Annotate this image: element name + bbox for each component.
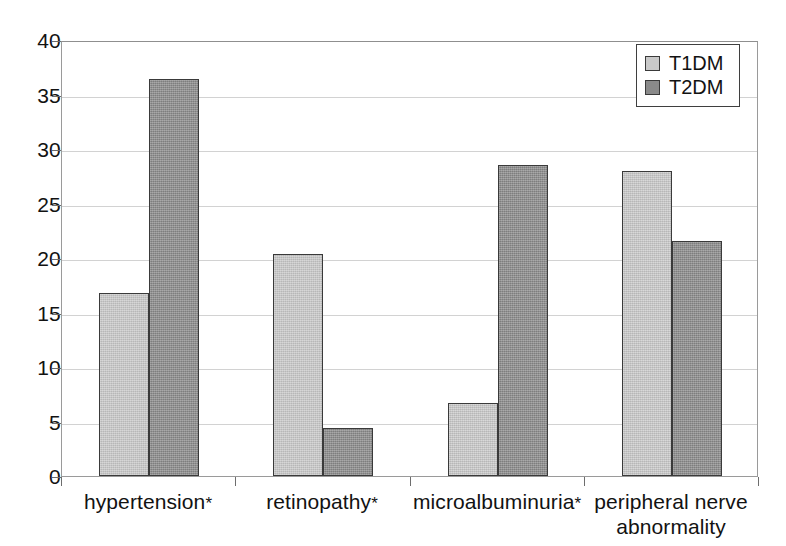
bar-t2dm-cat0 (149, 79, 199, 476)
bar-chart: 0510152025303540 hypertension*retinopath… (0, 0, 786, 546)
y-tick-mark-30 (52, 150, 61, 151)
legend-item-t1dm: T1DM (645, 51, 731, 75)
legend-label-t2dm: T2DM (669, 77, 723, 97)
x-tick-mark-4 (758, 477, 759, 486)
dark-gray-swatch-icon (645, 80, 660, 95)
y-tick-mark-40 (52, 41, 61, 42)
significance-asterisk: * (371, 494, 378, 513)
legend-item-t2dm: T2DM (645, 75, 731, 99)
x-cat-label-3: peripheral nerveabnormality (584, 489, 758, 539)
bar-t1dm-cat2 (448, 403, 498, 476)
legend: T1DM T2DM (636, 44, 740, 107)
y-tick-label-25: 25 (17, 194, 61, 215)
y-tick-mark-35 (52, 96, 61, 97)
y-tick-label-35: 35 (17, 85, 61, 106)
x-cat-label-1: retinopathy* (235, 489, 409, 516)
y-tick-label-5: 5 (17, 412, 61, 433)
bar-t1dm-cat0 (99, 293, 149, 476)
x-cat-label-line: hypertension* (61, 489, 235, 516)
x-cat-label-line: microalbuminuria* (410, 489, 584, 516)
legend-label-t1dm: T1DM (669, 53, 723, 73)
x-cat-label-line: peripheral nerve (584, 489, 758, 514)
x-tick-mark-0 (61, 477, 62, 486)
x-tick-mark-1 (235, 477, 236, 486)
significance-asterisk: * (205, 494, 212, 513)
y-axis: 0510152025303540 (0, 0, 61, 546)
significance-asterisk: * (574, 494, 581, 513)
bar-t2dm-cat3 (672, 241, 722, 476)
y-tick-label-15: 15 (17, 303, 61, 324)
y-tick-mark-0 (52, 477, 61, 478)
x-cat-label-0: hypertension* (61, 489, 235, 516)
x-tick-mark-2 (410, 477, 411, 486)
y-tick-mark-25 (52, 205, 61, 206)
x-tick-mark-3 (584, 477, 585, 486)
light-gray-swatch-icon (645, 56, 660, 71)
y-tick-mark-15 (52, 314, 61, 315)
bar-t2dm-cat1 (323, 428, 373, 476)
bar-t1dm-cat3 (622, 171, 672, 476)
x-cat-label-2: microalbuminuria* (410, 489, 584, 516)
y-tick-mark-5 (52, 423, 61, 424)
bar-t1dm-cat1 (273, 254, 323, 476)
y-tick-mark-10 (52, 368, 61, 369)
bar-t2dm-cat2 (498, 165, 548, 476)
x-cat-label-line: retinopathy* (235, 489, 409, 516)
x-cat-label-line: abnormality (584, 514, 758, 539)
y-tick-mark-20 (52, 259, 61, 260)
